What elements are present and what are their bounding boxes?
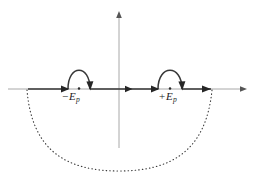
pole-label-positive-subscript: p <box>173 95 177 104</box>
pole-label-negative-subscript: p <box>76 95 80 104</box>
real-axis-arrowhead <box>240 86 247 92</box>
pole-label-positive: +Ep <box>159 91 177 102</box>
contour-diagram-canvas <box>0 0 254 181</box>
pole-label-negative-symbol: E <box>69 90 76 102</box>
contour-arrow-3 <box>125 86 133 92</box>
contour-semicircle-negative-pole <box>68 70 90 89</box>
pole-label-negative: −Ep <box>62 91 80 102</box>
contour-diagram-figure: −Ep +Ep <box>0 0 254 181</box>
pole-label-positive-symbol: E <box>166 90 173 102</box>
pole-label-positive-sign: + <box>159 90 165 102</box>
contour-arrow-6 <box>202 86 211 93</box>
contour-semicircle-positive-pole <box>158 70 182 89</box>
pole-dot-negative <box>78 87 81 90</box>
contour-direction-arrows <box>61 81 211 92</box>
axes-group <box>8 11 247 148</box>
imaginary-axis-arrowhead <box>116 11 122 18</box>
pole-label-negative-sign: − <box>62 90 68 102</box>
